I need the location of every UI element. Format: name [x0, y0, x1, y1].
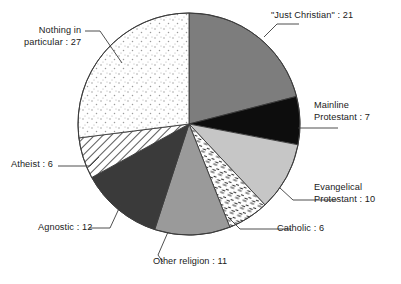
slice-label-line1: Agnostic : 12: [38, 222, 92, 232]
pie-slice-nothing-in-particular[interactable]: [78, 13, 189, 138]
slice-label-line1: Evangelical: [314, 182, 362, 192]
slice-label-line2: particular : 27: [24, 37, 81, 47]
slice-label-just-christian: "Just Christian" : 21: [271, 10, 353, 22]
slice-label-line1: Mainline: [314, 100, 349, 110]
slice-label-other-religion: Other religion : 11: [153, 256, 227, 268]
pie-slices-group: [78, 13, 300, 235]
slice-label-nothing-in-particular: Nothing inparticular : 27: [24, 25, 81, 48]
pie-chart-figure: "Just Christian" : 21 MainlineProtestant…: [0, 0, 401, 284]
slice-label-line1: Other religion : 11: [153, 256, 227, 266]
slice-label-line1: Nothing in: [39, 25, 81, 35]
slice-label-line1: Atheist : 6: [11, 159, 53, 169]
slice-label-agnostic: Agnostic : 12: [38, 222, 92, 234]
slice-label-evangelical: EvangelicalProtestant : 10: [314, 182, 375, 205]
slice-label-line1: "Just Christian" : 21: [271, 10, 353, 20]
slice-label-mainline: MainlineProtestant : 7: [314, 100, 370, 123]
slice-label-catholic: Catholic : 6: [277, 223, 324, 235]
slice-label-atheist: Atheist : 6: [11, 159, 53, 171]
slice-label-line2: Protestant : 10: [314, 194, 375, 204]
leader-line-just-christian: [264, 24, 299, 37]
slice-label-line2: Protestant : 7: [314, 112, 370, 122]
slice-label-line1: Catholic : 6: [277, 223, 324, 233]
